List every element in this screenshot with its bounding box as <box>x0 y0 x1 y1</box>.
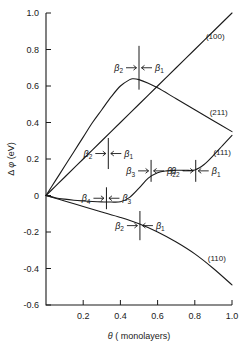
curve-label-111: (111) <box>213 148 231 157</box>
arrow-left-icon <box>183 168 194 173</box>
arrow-left-icon <box>127 223 137 228</box>
curve-label-211: (211) <box>210 108 228 117</box>
beta-label-left: β2 <box>113 63 123 75</box>
curve-label-100: (100) <box>206 32 225 41</box>
arrow-left-icon <box>138 168 149 173</box>
arrow-right-icon <box>111 151 122 156</box>
beta-label-right: β1 <box>123 149 133 161</box>
arrow-left-icon <box>126 65 137 70</box>
curve-label-110: (110) <box>208 254 226 263</box>
arrow-right-icon <box>109 196 120 201</box>
x-tick-label: 1.0 <box>226 311 239 321</box>
y-tick-label: -0.4 <box>23 264 39 274</box>
arrow-left-icon <box>95 151 106 156</box>
x-tick-label: 0.4 <box>114 311 127 321</box>
beta-label-left: β4 <box>81 193 91 205</box>
beta-label-left: β2 <box>170 166 180 178</box>
curve-211 <box>46 79 232 196</box>
chart-canvas: 1.00.80.60.40.20-0.2-0.4-0.60.20.40.60.8… <box>0 0 247 359</box>
y-tick-label: 0.4 <box>26 118 39 128</box>
beta-label-left: β2 <box>114 221 124 233</box>
beta-label-right: β1 <box>154 63 164 75</box>
beta-label-right: β3 <box>121 193 131 205</box>
x-tick-label: 0.2 <box>77 311 90 321</box>
figure-work-function-vs-coverage: 1.00.80.60.40.20-0.2-0.4-0.60.20.40.60.8… <box>0 0 247 359</box>
y-tick-label: 0.6 <box>26 81 39 91</box>
arrow-right-icon <box>198 168 209 173</box>
y-tick-label: 0.2 <box>26 154 39 164</box>
y-tick-label: -0.2 <box>23 227 39 237</box>
curve-100 <box>46 13 232 196</box>
y-axis-title: Δ φ (eV) <box>6 142 16 175</box>
beta-label-left: β3 <box>125 166 135 178</box>
beta-label-right: β1 <box>211 166 221 178</box>
y-tick-label: -0.6 <box>23 300 39 310</box>
x-axis-title: θ ( monolayers) <box>108 331 170 341</box>
beta-label-right: β1 <box>155 221 165 233</box>
y-tick-label: 1.0 <box>26 8 39 18</box>
x-tick-label: 0.6 <box>151 311 164 321</box>
arrow-left-icon <box>93 196 104 201</box>
curve-110 <box>46 196 232 285</box>
arrow-right-icon <box>142 65 153 70</box>
y-tick-label: 0 <box>34 191 39 201</box>
y-tick-label: 0.8 <box>26 45 39 55</box>
x-tick-label: 0.8 <box>189 311 202 321</box>
